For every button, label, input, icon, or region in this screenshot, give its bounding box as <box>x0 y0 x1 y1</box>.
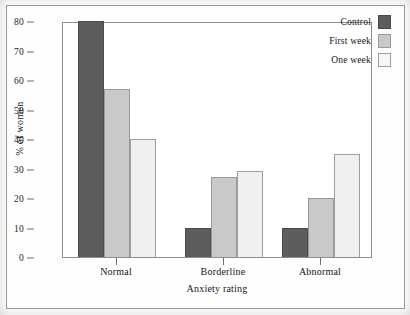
y-tick-mark <box>27 258 34 259</box>
y-tick-label: 60 <box>0 75 24 87</box>
y-tick-mark <box>27 22 34 23</box>
legend-item: One week <box>291 50 391 69</box>
bar <box>185 228 211 258</box>
y-tick-mark <box>27 140 34 141</box>
bar-group <box>78 23 156 257</box>
y-tick-label: 10 <box>0 223 24 235</box>
x-tick-label: Borderline <box>168 266 278 277</box>
legend-item: Control <box>291 12 391 31</box>
legend-color-swatch <box>378 34 391 48</box>
bar <box>78 21 104 257</box>
bar-group <box>185 23 263 257</box>
x-tick-mark <box>116 258 117 265</box>
legend-item-label: Control <box>341 17 371 27</box>
y-tick-label: 40 <box>0 134 24 146</box>
bar <box>130 139 156 257</box>
y-tick-label: 80 <box>0 16 24 28</box>
y-tick-mark <box>27 169 34 170</box>
y-tick-label: 50 <box>0 105 24 117</box>
y-tick-mark <box>27 81 34 82</box>
legend-item: First week <box>291 31 391 50</box>
x-tick-label: Abnormal <box>265 266 375 277</box>
y-tick-label: 30 <box>0 164 24 176</box>
legend-item-label: One week <box>331 55 371 65</box>
y-tick-label: 20 <box>0 193 24 205</box>
legend: ControlFirst weekOne week <box>291 12 391 69</box>
y-tick-label: 70 <box>0 46 24 58</box>
x-tick-mark <box>320 258 321 265</box>
bar <box>334 154 360 257</box>
y-tick-mark <box>27 199 34 200</box>
legend-color-swatch <box>378 53 391 67</box>
x-tick-mark <box>223 258 224 265</box>
legend-item-label: First week <box>329 36 371 46</box>
bar <box>237 171 263 257</box>
y-axis: 01020304050607080 <box>0 0 62 315</box>
y-tick-label: 0 <box>0 252 24 264</box>
x-tick-label: Normal <box>61 266 171 277</box>
y-tick-mark <box>27 228 34 229</box>
legend-color-swatch <box>378 15 391 29</box>
bar <box>282 228 308 258</box>
figure: % of women 01020304050607080 NormalBorde… <box>0 0 410 315</box>
y-tick-mark <box>27 51 34 52</box>
x-axis-title: Anxiety rating <box>62 283 372 294</box>
bar <box>104 89 130 257</box>
y-tick-mark <box>27 110 34 111</box>
bar <box>211 177 237 257</box>
bar <box>308 198 334 257</box>
